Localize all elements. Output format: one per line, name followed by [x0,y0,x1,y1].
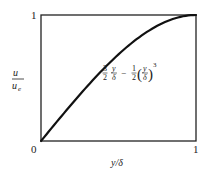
eq-paren-open: ( [137,66,142,83]
eq-minus: − [121,68,126,78]
eq-frac2-den: 2 [132,73,136,82]
x-tick-1: 1 [193,143,199,155]
eq-frac1-den: 2 [103,73,107,82]
y-tick-1: 1 [31,9,37,21]
chart: 1 0 1 y/δ u u e 3 2 y δ − 1 2 ( y δ ) 3 [0,0,214,174]
y-axis-label: u u e [12,67,24,93]
eq-var2-den: δ [143,73,147,82]
eq-var-den: δ [112,73,116,82]
eq-power: 3 [153,61,157,69]
eq-var2-num: y [142,64,147,73]
eq-frac2-num: 1 [132,64,136,73]
eq-frac1-num: 3 [103,64,107,73]
profile-curve [41,15,196,141]
y-label-denominator: u [12,80,17,91]
plot-frame [41,15,196,141]
equation-annotation: 3 2 y δ − 1 2 ( y δ ) 3 [103,61,158,83]
y-label-numerator: u [13,67,18,78]
x-tick-0: 0 [31,143,37,155]
y-label-denominator-subscript: e [18,85,21,93]
x-axis-label: y/δ [110,157,123,168]
eq-var-num: y [111,64,116,73]
